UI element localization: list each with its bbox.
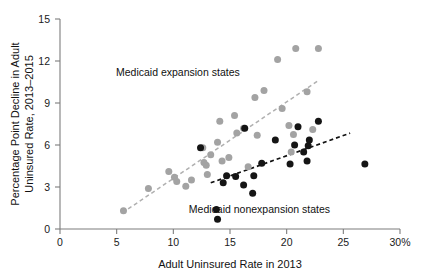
data-point [291, 142, 298, 149]
data-point [214, 139, 221, 146]
data-point [197, 144, 204, 151]
x-tick-label: 5 [114, 236, 120, 248]
data-point [315, 118, 322, 125]
axes [60, 19, 400, 229]
y-tick-label: 9 [44, 97, 50, 109]
data-point [272, 137, 279, 144]
data-point [232, 173, 239, 180]
data-point [285, 122, 292, 129]
data-point [165, 168, 172, 175]
y-tick-label: 15 [38, 13, 50, 25]
y-tick-label: 3 [44, 181, 50, 193]
data-point [300, 149, 307, 156]
y-tick-label: 12 [38, 55, 50, 67]
annotation-label-0: Medicaid expansion states [116, 66, 240, 78]
x-tick-label: 15 [224, 236, 236, 248]
y-tick-label: 0 [44, 223, 50, 235]
data-point [204, 171, 211, 178]
data-point [233, 130, 240, 137]
data-point [279, 105, 286, 112]
x-tick-label: 25 [337, 236, 349, 248]
data-point [274, 56, 281, 63]
x-tick-label: 0 [57, 236, 63, 248]
data-point [173, 178, 180, 185]
data-point [145, 185, 152, 192]
data-point [261, 87, 268, 94]
data-point [231, 112, 238, 119]
chart-annotations: Medicaid expansion statesMedicaid nonexp… [116, 66, 330, 215]
x-axis-title: Adult Uninsured Rate in 2013 [158, 258, 302, 270]
data-point [309, 126, 316, 133]
y-axis-title-line1: Percentage Point Decline in Adult [9, 42, 21, 205]
scatter-chart: 051015202530% 03691215 Medicaid expansio… [0, 0, 429, 276]
data-point [188, 177, 195, 184]
data-point [203, 162, 210, 169]
data-point [295, 123, 302, 130]
data-point [361, 160, 368, 167]
data-point [214, 216, 221, 223]
data-point [304, 88, 311, 95]
data-point [223, 172, 230, 179]
data-point [220, 179, 227, 186]
data-point [304, 158, 311, 165]
data-point [219, 158, 226, 165]
data-point [306, 137, 313, 144]
data-point [315, 45, 322, 52]
y-axis-ticks: 03691215 [38, 13, 60, 235]
data-point [241, 125, 248, 132]
data-point [207, 151, 214, 158]
x-tick-label: 30% [389, 236, 410, 248]
expansion-trend [122, 81, 317, 213]
trendlines [122, 81, 350, 213]
data-point [287, 160, 294, 167]
data-point [249, 190, 256, 197]
data-point [250, 172, 257, 179]
data-point [225, 154, 232, 161]
x-tick-label: 10 [167, 236, 179, 248]
data-point [290, 131, 297, 138]
annotation-label-1: Medicaid nonexpansion states [189, 203, 330, 215]
data-point [216, 118, 223, 125]
x-axis-ticks: 051015202530% [57, 229, 410, 248]
data-point [292, 45, 299, 52]
data-point [251, 94, 258, 101]
data-point [245, 163, 252, 170]
chart-canvas: 051015202530% 03691215 Medicaid expansio… [0, 0, 429, 276]
data-point [254, 132, 261, 139]
y-axis-title-line2: Uninsured Rate, 2013–2015 [23, 55, 35, 193]
x-tick-label: 20 [281, 236, 293, 248]
data-point [182, 183, 189, 190]
data-point [120, 207, 127, 214]
data-point [288, 149, 295, 156]
y-tick-label: 6 [44, 139, 50, 151]
data-point [258, 160, 265, 167]
data-point [240, 181, 247, 188]
